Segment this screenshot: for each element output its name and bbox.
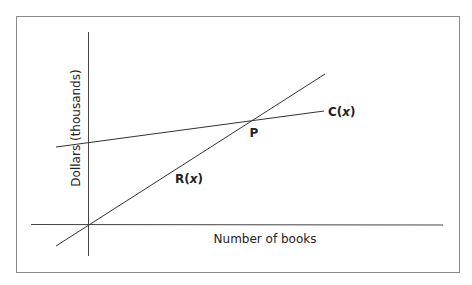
cost-line bbox=[56, 111, 324, 147]
revenue-line bbox=[56, 74, 325, 246]
break-even-chart: Dollars (thousands) Number of books R(x)… bbox=[0, 0, 472, 285]
break-even-point-label: P bbox=[250, 126, 259, 140]
cost-label-fn: C( bbox=[328, 105, 342, 119]
revenue-label-close: ) bbox=[197, 172, 202, 186]
cost-label-close: ) bbox=[350, 105, 355, 119]
x-axis-label: Number of books bbox=[214, 232, 317, 246]
revenue-label: R(x) bbox=[175, 172, 203, 186]
cost-label: C(x) bbox=[328, 105, 356, 119]
x-axis bbox=[31, 225, 443, 226]
revenue-label-fn: R( bbox=[175, 172, 190, 186]
y-axis-label: Dollars (thousands) bbox=[69, 69, 83, 186]
